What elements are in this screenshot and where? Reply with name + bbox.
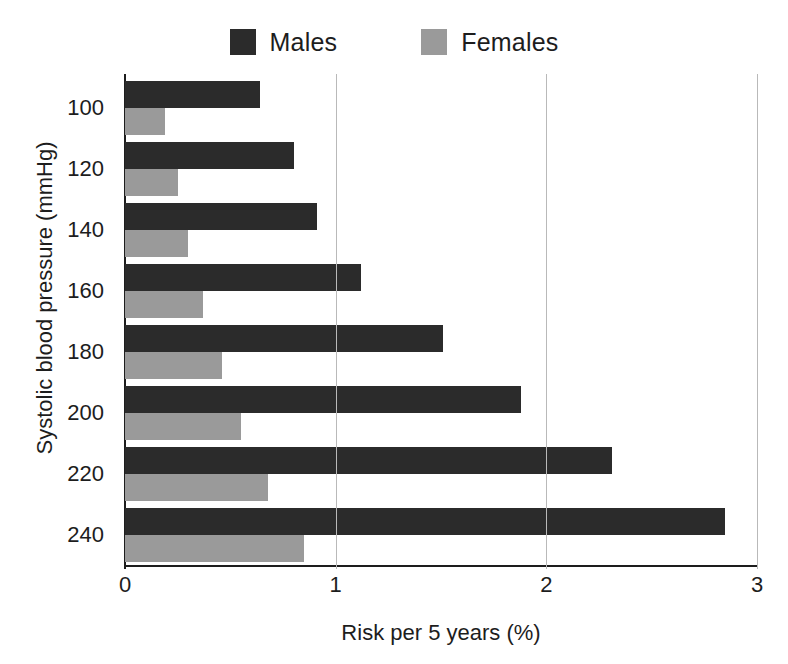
x-axis-title: Risk per 5 years (%) (125, 620, 757, 646)
y-tick-220: 220 (67, 461, 104, 487)
legend-label-males: Males (270, 30, 338, 55)
chart-legend: Males Females (0, 22, 788, 62)
x-tick-2: 2 (540, 572, 552, 598)
legend-swatch-females (421, 29, 447, 55)
legend-label-females: Females (461, 30, 558, 55)
bar-females-240 (125, 535, 304, 562)
y-tick-100: 100 (67, 95, 104, 121)
bar-group-120 (125, 139, 757, 200)
bar-chart: Males Females Systolic blood pressure (m… (0, 0, 788, 664)
y-tick-180: 180 (67, 339, 104, 365)
bar-females-100 (125, 108, 165, 135)
bar-group-240 (125, 504, 757, 565)
legend-entry-females: Females (421, 29, 558, 55)
bar-males-160 (125, 264, 361, 291)
plot-area (125, 78, 757, 565)
bar-females-180 (125, 352, 222, 379)
bar-males-100 (125, 81, 260, 108)
bar-groups (125, 78, 757, 565)
y-tick-140: 140 (67, 217, 104, 243)
bar-females-160 (125, 291, 203, 318)
x-tick-0: 0 (119, 572, 131, 598)
gridline-x-3 (757, 74, 758, 569)
bar-males-220 (125, 447, 612, 474)
y-tick-240: 240 (67, 522, 104, 548)
bar-males-240 (125, 508, 725, 535)
bar-males-120 (125, 142, 294, 169)
x-axis-tick-labels: 0123 (125, 572, 757, 608)
bar-females-120 (125, 169, 178, 196)
y-axis-tick-labels: 100120140160180200220240 (0, 78, 118, 565)
y-tick-200: 200 (67, 400, 104, 426)
bar-females-140 (125, 230, 188, 257)
x-tick-3: 3 (751, 572, 763, 598)
legend-entry-males: Males (230, 29, 338, 55)
bar-group-220 (125, 443, 757, 504)
bar-males-140 (125, 203, 317, 230)
bar-group-100 (125, 78, 757, 139)
x-axis-line (124, 565, 758, 567)
bar-group-160 (125, 261, 757, 322)
gridline-x-2 (546, 74, 547, 569)
bar-males-180 (125, 325, 443, 352)
bar-males-200 (125, 386, 521, 413)
y-tick-120: 120 (67, 156, 104, 182)
bar-group-140 (125, 200, 757, 261)
legend-swatch-males (230, 29, 256, 55)
bar-females-220 (125, 474, 268, 501)
gridline-x-1 (336, 74, 337, 569)
bar-group-180 (125, 322, 757, 383)
y-tick-160: 160 (67, 278, 104, 304)
bar-group-200 (125, 382, 757, 443)
bar-females-200 (125, 413, 241, 440)
x-tick-1: 1 (330, 572, 342, 598)
